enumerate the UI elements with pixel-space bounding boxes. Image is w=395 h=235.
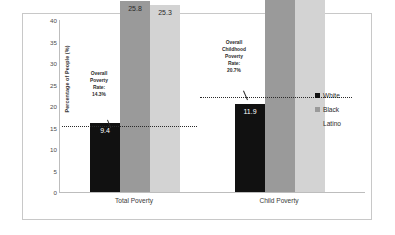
annotation-line: Overall: [213, 39, 255, 46]
bar-value-label: 25.8: [120, 5, 150, 12]
reference-line-overall-poverty-rate: [62, 126, 197, 127]
y-axis-tick-labels: 40 35 30 25 20 15 10 5 0: [31, 20, 57, 192]
annotation-line: Overall: [78, 70, 120, 77]
annotation-line: Poverty: [213, 53, 255, 60]
bar-value-label: 9.4: [90, 127, 120, 134]
legend-item-latino[interactable]: Latino: [315, 120, 365, 127]
annotation-overall-childhood-poverty-rate: Overall Childhood Poverty Rate: 20.7%: [213, 39, 255, 75]
legend-swatch-icon: [315, 121, 320, 126]
y-tick-15: 15: [31, 124, 57, 131]
legend: White Black Latino: [315, 92, 365, 134]
annotation-line: Rate:: [78, 84, 120, 91]
y-tick-0: 0: [31, 189, 57, 196]
legend-swatch-icon: [315, 93, 320, 98]
legend-item-white[interactable]: White: [315, 92, 365, 99]
bar-white-child-poverty[interactable]: 11.9: [235, 104, 265, 192]
legend-label: White: [323, 92, 340, 99]
legend-swatch-icon: [315, 107, 320, 112]
x-axis-line: [59, 192, 365, 193]
chart-container: Percentage of People (%) 40 35 30 25 20 …: [22, 13, 372, 220]
annotation-line: Poverty: [78, 77, 120, 84]
annotation-line: 20.7%: [213, 67, 255, 74]
annotation-line: Childhood: [213, 46, 255, 53]
y-tick-35: 35: [31, 38, 57, 45]
y-tick-20: 20: [31, 103, 57, 110]
annotation-line: 14.3%: [78, 91, 120, 98]
annotation-overall-poverty-rate: Overall Poverty Rate: 14.3%: [78, 70, 120, 98]
bar-white-total-poverty[interactable]: 9.4: [90, 123, 120, 192]
y-tick-5: 5: [31, 167, 57, 174]
x-axis-label-child-poverty: Child Poverty: [215, 197, 343, 204]
x-axis-label-total-poverty: Total Poverty: [70, 197, 198, 204]
legend-item-black[interactable]: Black: [315, 106, 365, 113]
y-tick-30: 30: [31, 60, 57, 67]
bar-black-total-poverty[interactable]: 25.8: [120, 1, 150, 192]
bar-group-total-poverty: 9.4 25.8 25.3: [70, 20, 198, 192]
bar-latino-total-poverty[interactable]: 25.3: [150, 5, 180, 192]
y-tick-10: 10: [31, 146, 57, 153]
bar-value-label: 11.9: [235, 108, 265, 115]
y-tick-40: 40: [31, 17, 57, 24]
y-tick-25: 25: [31, 81, 57, 88]
legend-label: Black: [323, 106, 339, 113]
annotation-line: Rate:: [213, 60, 255, 67]
legend-label: Latino: [323, 120, 341, 127]
bar-value-label: 25.3: [150, 9, 180, 16]
